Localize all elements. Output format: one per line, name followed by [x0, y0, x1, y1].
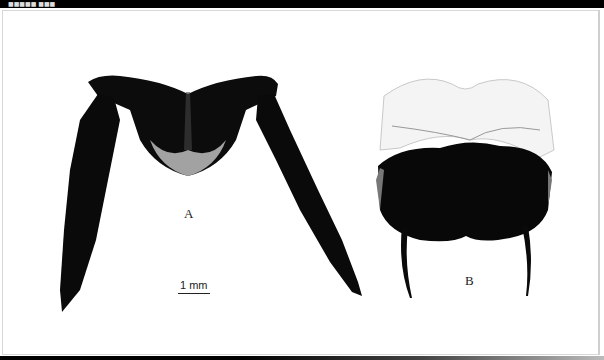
scale-bar-label: 1 mm	[180, 279, 208, 291]
panel-label-a: A	[184, 206, 193, 222]
figure-illustration	[0, 0, 604, 360]
specimen-a	[60, 76, 362, 312]
panel-label-b: B	[465, 273, 474, 289]
scale-bar-line	[178, 293, 210, 294]
bottom-bar	[0, 356, 604, 360]
specimen-b	[376, 79, 554, 298]
